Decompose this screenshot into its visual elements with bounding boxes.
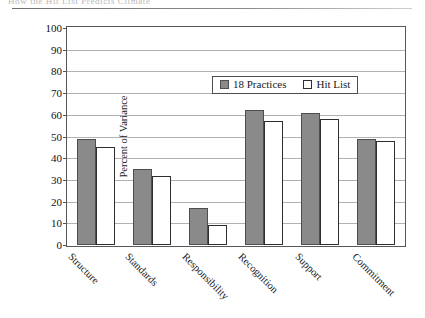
- bar-hitlist: [376, 141, 395, 245]
- bar-practices: [245, 110, 264, 245]
- x-axis-label: Structure: [67, 251, 102, 286]
- x-label-cell: Responsibility: [179, 249, 236, 317]
- bar-practices: [133, 169, 152, 245]
- bar-hitlist: [96, 147, 115, 245]
- y-tick-mark: [63, 137, 67, 138]
- y-tick-label: 30: [51, 174, 62, 186]
- y-tick-label: 20: [51, 196, 62, 208]
- y-tick-mark: [63, 28, 67, 29]
- y-tick-label: 50: [51, 131, 62, 143]
- x-label-cell: Commitment: [349, 249, 406, 317]
- legend-swatch-hitlist: [303, 80, 312, 89]
- bar-hitlist: [320, 119, 339, 245]
- bar-group: [180, 28, 236, 245]
- y-tick-label: 0: [57, 239, 63, 251]
- y-tick-label: 10: [51, 217, 62, 229]
- bar-group: [236, 28, 292, 245]
- bar-hitlist: [264, 121, 283, 245]
- x-axis-label: Support: [293, 251, 324, 282]
- bar-group: [348, 28, 404, 245]
- y-tick-mark: [63, 202, 67, 203]
- x-label-cell: Structure: [66, 249, 123, 317]
- legend-label: 18 Practices: [233, 79, 286, 90]
- x-axis-label: Standards: [123, 251, 160, 288]
- bar-hitlist: [208, 225, 227, 245]
- y-tick-mark: [63, 93, 67, 94]
- x-axis-label: Responsibility: [180, 251, 231, 302]
- bar-group: [68, 28, 124, 245]
- bar-practices: [301, 113, 320, 245]
- y-tick-mark: [63, 71, 67, 72]
- x-label-cell: Recognition: [236, 249, 293, 317]
- bar-practices: [189, 208, 208, 245]
- y-tick-label: 80: [51, 65, 62, 77]
- legend-label: Hit List: [316, 79, 350, 90]
- bar-practices: [77, 139, 96, 245]
- bar-hitlist: [152, 176, 171, 245]
- x-axis-labels: StructureStandardsResponsibilityRecognit…: [66, 249, 406, 317]
- chart-legend: 18 PracticesHit List: [212, 76, 358, 94]
- y-tick-label: 70: [51, 87, 62, 99]
- y-tick-mark: [63, 50, 67, 51]
- x-axis-label: Recognition: [237, 251, 281, 295]
- y-tick-mark: [63, 115, 67, 116]
- plot-area: Percent of Variance 10090807060504030201…: [66, 26, 406, 247]
- y-tick-mark: [63, 223, 67, 224]
- legend-swatch-practices: [220, 80, 229, 89]
- legend-item: Hit List: [303, 79, 350, 90]
- y-tick-label: 100: [46, 22, 63, 34]
- bar-groups: [68, 28, 404, 245]
- x-label-cell: Standards: [123, 249, 180, 317]
- bar-practices: [357, 139, 376, 245]
- bar-group: [124, 28, 180, 245]
- y-tick-label: 40: [51, 152, 62, 164]
- y-tick-label: 90: [51, 44, 62, 56]
- y-tick-mark: [63, 245, 67, 246]
- x-axis-label: Commitment: [350, 251, 397, 298]
- y-tick-label: 60: [51, 109, 62, 121]
- y-tick-mark: [63, 180, 67, 181]
- bar-chart-figure: Percent of Variance 10090807060504030201…: [0, 0, 425, 318]
- y-tick-mark: [63, 158, 67, 159]
- bar-group: [292, 28, 348, 245]
- legend-item: 18 Practices: [220, 79, 286, 90]
- x-label-cell: Support: [293, 249, 350, 317]
